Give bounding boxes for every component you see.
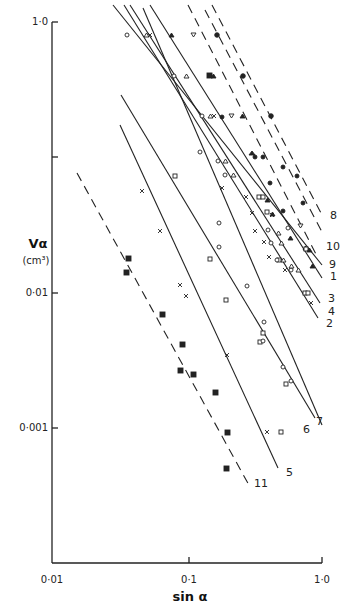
log-log-chart: 1·0 0·01 0·001 0·01 0·1 1·0 Vα (cm³) sin… xyxy=(0,0,351,615)
curve-label-4: 4 xyxy=(328,305,335,318)
curve-label-8: 8 xyxy=(330,209,337,222)
x-tick-label-0-01: 0·01 xyxy=(41,574,63,585)
curve-label-7: 7 xyxy=(316,415,323,428)
curve-1 xyxy=(113,5,322,265)
y-tick-label-0-001: 0·001 xyxy=(19,422,48,433)
curve-label-11: 11 xyxy=(254,477,268,490)
curve-label-3: 3 xyxy=(328,292,335,305)
curve-label-5: 5 xyxy=(286,466,293,479)
x-tick-label-0-1: 0·1 xyxy=(181,574,197,585)
curve-label-10: 10 xyxy=(326,240,340,253)
y-axis-units: (cm³) xyxy=(22,255,49,266)
curve-7 xyxy=(143,8,322,425)
y-axis-title: Vα xyxy=(29,236,48,251)
x-axis-title: sin α xyxy=(173,589,208,604)
y-tick-label-0-01: 0·01 xyxy=(26,287,48,298)
curve-5 xyxy=(120,125,278,468)
curve-label-2: 2 xyxy=(326,317,333,330)
curve-8 xyxy=(212,5,322,215)
curve-label-1: 1 xyxy=(330,270,337,283)
curve-4 xyxy=(130,5,320,303)
x-tick-label-1: 1·0 xyxy=(314,574,330,585)
curve-label-9: 9 xyxy=(329,258,336,271)
data-points xyxy=(124,33,315,471)
y-tick-label-1: 1·0 xyxy=(32,16,48,27)
curve-labels: 1 2 3 4 5 6 7 8 9 10 11 xyxy=(254,209,340,490)
dashed-curves xyxy=(77,5,322,487)
curve-9 xyxy=(188,5,318,258)
curve-3 xyxy=(150,5,322,278)
curve-label-6: 6 xyxy=(303,423,310,436)
axes xyxy=(52,22,322,563)
